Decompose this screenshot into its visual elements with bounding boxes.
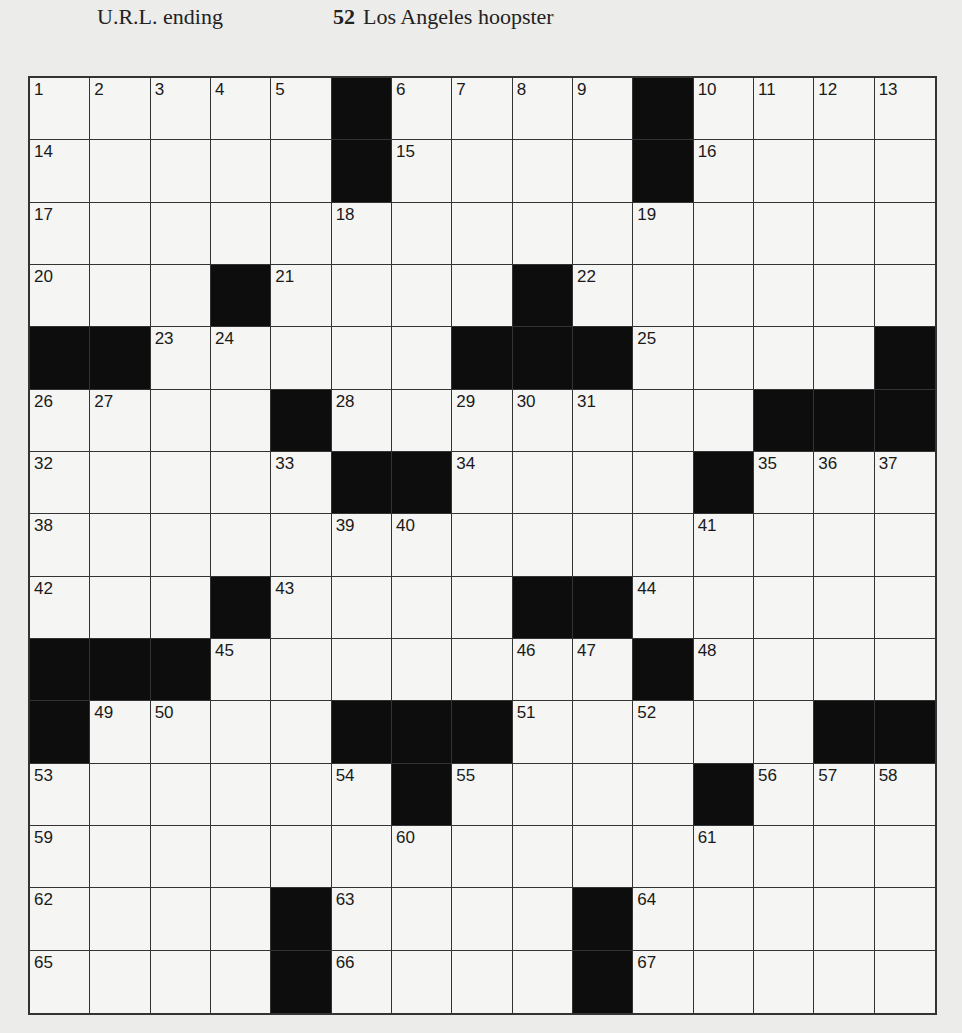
grid-cell[interactable] bbox=[211, 514, 271, 576]
grid-cell[interactable] bbox=[754, 888, 814, 950]
grid-cell[interactable] bbox=[573, 203, 633, 265]
grid-cell[interactable]: 56 bbox=[754, 764, 814, 826]
grid-cell[interactable] bbox=[573, 452, 633, 514]
grid-cell[interactable] bbox=[392, 327, 452, 389]
grid-cell[interactable] bbox=[754, 826, 814, 888]
grid-cell[interactable] bbox=[633, 390, 693, 452]
grid-cell[interactable]: 25 bbox=[633, 327, 693, 389]
grid-cell[interactable] bbox=[633, 764, 693, 826]
grid-cell[interactable]: 55 bbox=[452, 764, 512, 826]
grid-cell[interactable] bbox=[875, 577, 935, 639]
grid-cell[interactable] bbox=[452, 265, 512, 327]
grid-cell[interactable]: 64 bbox=[633, 888, 693, 950]
grid-cell[interactable]: 24 bbox=[211, 327, 271, 389]
grid-cell[interactable] bbox=[211, 390, 271, 452]
grid-cell[interactable] bbox=[754, 639, 814, 701]
grid-cell[interactable] bbox=[211, 701, 271, 763]
grid-cell[interactable] bbox=[754, 951, 814, 1013]
grid-cell[interactable]: 44 bbox=[633, 577, 693, 639]
grid-cell[interactable] bbox=[513, 888, 573, 950]
grid-cell[interactable] bbox=[754, 327, 814, 389]
grid-cell[interactable] bbox=[332, 265, 392, 327]
grid-cell[interactable]: 59 bbox=[30, 826, 90, 888]
grid-cell[interactable] bbox=[90, 452, 150, 514]
grid-cell[interactable]: 41 bbox=[694, 514, 754, 576]
grid-cell[interactable] bbox=[513, 203, 573, 265]
grid-cell[interactable] bbox=[392, 888, 452, 950]
grid-cell[interactable] bbox=[151, 951, 211, 1013]
grid-cell[interactable]: 22 bbox=[573, 265, 633, 327]
grid-cell[interactable]: 67 bbox=[633, 951, 693, 1013]
grid-cell[interactable]: 30 bbox=[513, 390, 573, 452]
grid-cell[interactable]: 5 bbox=[271, 78, 331, 140]
grid-cell[interactable] bbox=[392, 390, 452, 452]
grid-cell[interactable]: 4 bbox=[211, 78, 271, 140]
grid-cell[interactable]: 43 bbox=[271, 577, 331, 639]
grid-cell[interactable] bbox=[633, 452, 693, 514]
grid-cell[interactable] bbox=[90, 764, 150, 826]
grid-cell[interactable] bbox=[814, 327, 874, 389]
grid-cell[interactable]: 40 bbox=[392, 514, 452, 576]
grid-cell[interactable]: 1 bbox=[30, 78, 90, 140]
grid-cell[interactable] bbox=[452, 951, 512, 1013]
grid-cell[interactable]: 23 bbox=[151, 327, 211, 389]
grid-cell[interactable] bbox=[271, 701, 331, 763]
grid-cell[interactable]: 16 bbox=[694, 140, 754, 202]
grid-cell[interactable]: 49 bbox=[90, 701, 150, 763]
grid-cell[interactable] bbox=[452, 639, 512, 701]
grid-cell[interactable]: 21 bbox=[271, 265, 331, 327]
grid-cell[interactable] bbox=[211, 140, 271, 202]
grid-cell[interactable] bbox=[694, 265, 754, 327]
grid-cell[interactable] bbox=[754, 577, 814, 639]
grid-cell[interactable]: 8 bbox=[513, 78, 573, 140]
grid-cell[interactable] bbox=[573, 826, 633, 888]
grid-cell[interactable]: 6 bbox=[392, 78, 452, 140]
grid-cell[interactable] bbox=[694, 577, 754, 639]
grid-cell[interactable] bbox=[452, 203, 512, 265]
grid-cell[interactable]: 38 bbox=[30, 514, 90, 576]
grid-cell[interactable] bbox=[573, 764, 633, 826]
grid-cell[interactable]: 61 bbox=[694, 826, 754, 888]
grid-cell[interactable] bbox=[814, 140, 874, 202]
grid-cell[interactable]: 29 bbox=[452, 390, 512, 452]
grid-cell[interactable] bbox=[513, 452, 573, 514]
grid-cell[interactable]: 47 bbox=[573, 639, 633, 701]
grid-cell[interactable]: 37 bbox=[875, 452, 935, 514]
grid-cell[interactable] bbox=[151, 140, 211, 202]
grid-cell[interactable] bbox=[452, 888, 512, 950]
grid-cell[interactable] bbox=[814, 203, 874, 265]
grid-cell[interactable]: 57 bbox=[814, 764, 874, 826]
grid-cell[interactable]: 28 bbox=[332, 390, 392, 452]
grid-cell[interactable] bbox=[694, 203, 754, 265]
grid-cell[interactable]: 33 bbox=[271, 452, 331, 514]
grid-cell[interactable] bbox=[573, 140, 633, 202]
grid-cell[interactable] bbox=[271, 327, 331, 389]
grid-cell[interactable]: 13 bbox=[875, 78, 935, 140]
grid-cell[interactable] bbox=[392, 577, 452, 639]
grid-cell[interactable] bbox=[211, 452, 271, 514]
grid-cell[interactable]: 12 bbox=[814, 78, 874, 140]
grid-cell[interactable]: 9 bbox=[573, 78, 633, 140]
grid-cell[interactable] bbox=[332, 327, 392, 389]
grid-cell[interactable] bbox=[633, 265, 693, 327]
grid-cell[interactable]: 63 bbox=[332, 888, 392, 950]
grid-cell[interactable]: 14 bbox=[30, 140, 90, 202]
grid-cell[interactable] bbox=[814, 639, 874, 701]
grid-cell[interactable] bbox=[754, 203, 814, 265]
grid-cell[interactable] bbox=[151, 203, 211, 265]
grid-cell[interactable] bbox=[90, 265, 150, 327]
grid-cell[interactable]: 52 bbox=[633, 701, 693, 763]
grid-cell[interactable] bbox=[90, 888, 150, 950]
grid-cell[interactable] bbox=[875, 951, 935, 1013]
grid-cell[interactable] bbox=[452, 140, 512, 202]
grid-cell[interactable]: 27 bbox=[90, 390, 150, 452]
grid-cell[interactable] bbox=[694, 327, 754, 389]
grid-cell[interactable] bbox=[271, 639, 331, 701]
grid-cell[interactable] bbox=[513, 826, 573, 888]
grid-cell[interactable]: 11 bbox=[754, 78, 814, 140]
grid-cell[interactable]: 31 bbox=[573, 390, 633, 452]
grid-cell[interactable] bbox=[211, 888, 271, 950]
grid-cell[interactable] bbox=[271, 514, 331, 576]
grid-cell[interactable]: 51 bbox=[513, 701, 573, 763]
grid-cell[interactable] bbox=[754, 140, 814, 202]
